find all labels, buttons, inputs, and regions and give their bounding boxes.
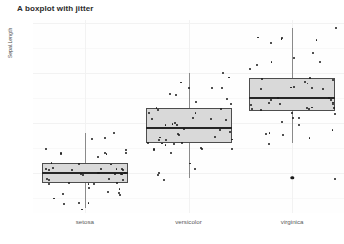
plot-panel <box>33 20 344 213</box>
jitter-point <box>279 103 281 105</box>
median-line <box>249 97 335 99</box>
jitter-point <box>298 124 300 126</box>
jitter-point <box>251 108 253 110</box>
x-tick-label-virginica: virginica <box>281 218 304 225</box>
jitter-point <box>158 139 160 141</box>
jitter-point <box>249 68 251 70</box>
jitter-point <box>60 153 62 155</box>
jitter-point <box>122 179 124 181</box>
jitter-point <box>293 57 295 59</box>
jitter-point <box>281 37 283 39</box>
jitter-point <box>88 202 90 204</box>
jitter-point <box>78 163 80 165</box>
jitter-point <box>104 137 106 139</box>
jitter-point <box>334 178 336 180</box>
jitter-point <box>183 128 185 130</box>
jitter-point <box>221 87 223 89</box>
jitter-point <box>124 172 126 174</box>
jitter-point <box>63 203 65 205</box>
jitter-point <box>88 183 90 185</box>
jitter-point <box>97 156 99 158</box>
jitter-point <box>192 117 194 119</box>
jitter-point <box>170 152 172 154</box>
jitter-point <box>93 183 95 185</box>
box-versicolor <box>146 108 232 143</box>
jitter-point <box>316 39 318 41</box>
jitter-point <box>211 87 213 89</box>
jitter-point <box>312 52 314 54</box>
jitter-point <box>106 153 108 155</box>
jitter-point <box>68 182 70 184</box>
jitter-point <box>270 99 272 101</box>
jitter-point <box>153 149 155 151</box>
jitter-point <box>330 99 332 101</box>
jitter-point <box>271 61 273 63</box>
jitter-point <box>292 117 294 119</box>
jitter-point <box>309 77 311 79</box>
jitter-point <box>176 124 178 126</box>
jitter-point <box>107 191 109 193</box>
jitter-point <box>222 72 224 74</box>
jitter-point <box>78 202 80 204</box>
jitter-point <box>53 198 55 200</box>
jitter-point <box>304 81 306 83</box>
jitter-point <box>270 42 272 44</box>
jitter-point <box>45 148 47 150</box>
jitter-point <box>163 179 165 181</box>
x-tick-label-setosa: setosa <box>76 218 94 225</box>
jitter-point <box>173 143 175 145</box>
outlier-point <box>290 176 293 179</box>
jitter-point <box>225 119 227 121</box>
jitter-point <box>119 194 121 196</box>
jitter-point <box>335 27 337 29</box>
jitter-point <box>332 79 334 81</box>
jitter-point <box>210 118 212 120</box>
jitter-point <box>169 93 171 95</box>
jitter-point <box>291 112 293 114</box>
jitter-point <box>165 139 167 141</box>
jitter-point <box>48 183 50 185</box>
jitter-point <box>228 77 230 79</box>
jitter-point <box>268 143 270 145</box>
jitter-point <box>195 101 197 103</box>
y-axis-label: Sepal.Length <box>7 13 13 73</box>
jitter-point <box>125 149 127 151</box>
box-virginica <box>249 78 335 112</box>
jitter-point <box>265 133 267 135</box>
jitter-point <box>165 144 167 146</box>
jitter-point <box>256 64 258 66</box>
jitter-point <box>334 113 336 115</box>
jitter-point <box>151 118 153 120</box>
jitter-point <box>125 152 127 154</box>
jitter-point <box>219 129 221 131</box>
jitter-point <box>188 87 190 89</box>
jitter-point <box>230 103 232 105</box>
jitter-point <box>282 134 284 136</box>
jitter-point <box>277 97 279 99</box>
boxplot-chart: A boxplot with jitter Sepal.Length 5678 … <box>0 0 344 244</box>
jitter-point <box>298 117 300 119</box>
jitter-point <box>157 174 159 176</box>
jitter-point <box>257 37 259 39</box>
jitter-point <box>181 142 183 144</box>
jitter-point <box>91 138 93 140</box>
jitter-point <box>229 131 231 133</box>
jitter-point <box>81 209 83 211</box>
jitter-point <box>88 187 90 189</box>
jitter-point <box>319 61 321 63</box>
x-tick-label-versicolor: versicolor <box>175 218 201 225</box>
jitter-point <box>62 193 64 195</box>
jitter-point <box>194 168 196 170</box>
jitter-point <box>116 182 118 184</box>
jitter-point <box>226 98 228 100</box>
jitter-point <box>45 168 47 170</box>
jitter-point <box>113 132 115 134</box>
jitter-point <box>175 94 177 96</box>
jitter-point <box>332 129 334 131</box>
jitter-point <box>147 142 149 144</box>
page-title: A boxplot with jitter <box>17 4 93 13</box>
jitter-point <box>48 169 50 171</box>
jitter-point <box>201 148 203 150</box>
jitter-point <box>100 168 102 170</box>
jitter-point <box>333 107 335 109</box>
